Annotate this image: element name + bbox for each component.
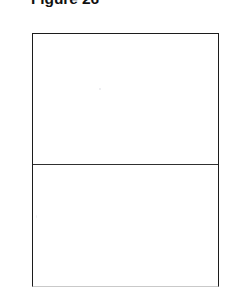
- figure-title-clip: Figure 26: [0, 0, 239, 9]
- document-page: Figure 26: [0, 0, 239, 295]
- figure-title: Figure 26: [31, 0, 99, 7]
- figure-lower-cell: [33, 165, 218, 286]
- figure-box: [32, 33, 219, 287]
- figure-upper-cell: [33, 34, 218, 164]
